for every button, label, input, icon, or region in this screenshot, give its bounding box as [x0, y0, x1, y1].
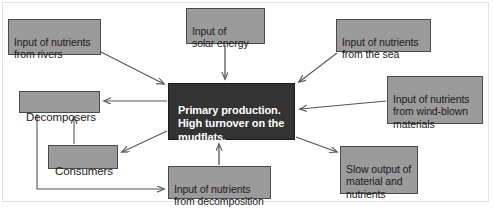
arrow-sea-to-center — [299, 53, 337, 82]
arrow-center-to-consumers — [122, 131, 167, 152]
node-slow-output: Slow output of material and nutrients — [340, 146, 418, 194]
arrow-wind-to-center — [300, 101, 386, 109]
node-input-nutrients-wind-blown: Input of nutrients from wind-blown mater… — [387, 76, 483, 124]
node-decomposers: Decomposers — [19, 91, 100, 113]
node-label: Decomposers — [26, 111, 96, 123]
node-primary-production: Primary production. High turnover on the… — [168, 83, 295, 140]
node-label: Input of solar energy — [192, 25, 249, 50]
node-input-nutrients-decomposition: Input of nutrients from decomposition — [168, 166, 271, 199]
node-label: Primary production. High turnover on the… — [178, 104, 284, 143]
node-input-nutrients-sea: Input of nutrients from the sea — [336, 19, 431, 52]
arrow-center-to-slow-output — [296, 137, 337, 152]
node-input-nutrients-rivers: Input of nutrients from rivers — [8, 19, 101, 55]
diagram-canvas: Input of nutrients from rivers Input of … — [0, 0, 493, 211]
node-label: Consumers — [55, 165, 113, 177]
node-input-solar-energy: Input of solar energy — [186, 8, 265, 44]
node-consumers: Consumers — [48, 145, 118, 169]
node-label: Input of nutrients from decomposition — [174, 183, 264, 208]
arrow-rivers-to-center — [101, 52, 164, 84]
